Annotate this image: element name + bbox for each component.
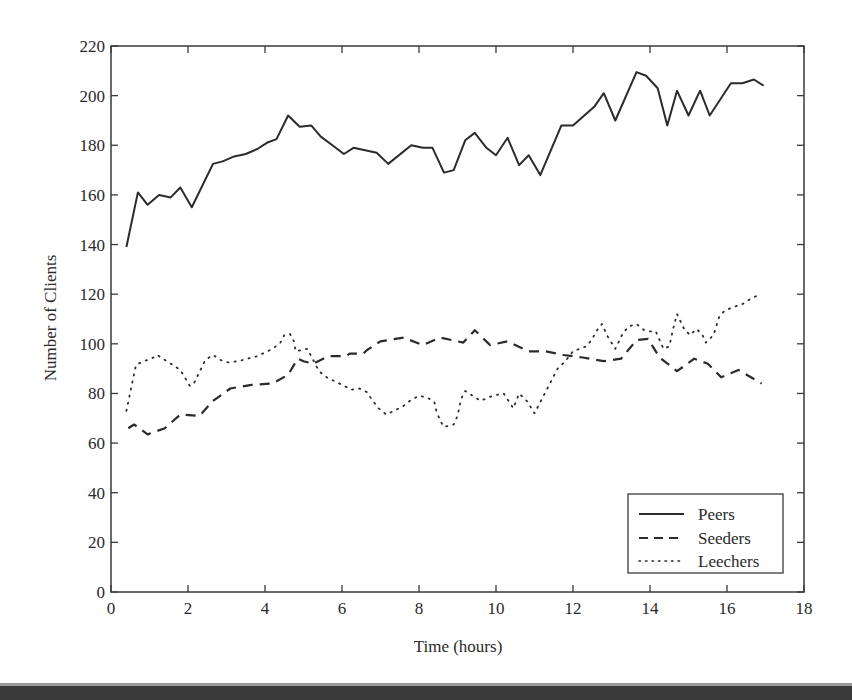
y-tick-label: 200	[80, 87, 106, 106]
series-layer	[126, 72, 763, 434]
y-axis-label: Number of Clients	[41, 255, 60, 382]
x-tick-label: 16	[719, 599, 736, 618]
y-tick-label: 220	[80, 37, 106, 56]
x-tick-label: 2	[184, 599, 193, 618]
legend-label-peers: Peers	[698, 505, 735, 524]
x-tick-label: 14	[642, 599, 660, 618]
y-tick-label: 0	[97, 583, 106, 602]
x-tick-label: 10	[488, 599, 505, 618]
x-axis-label: Time (hours)	[414, 637, 503, 656]
x-tick-label: 4	[261, 599, 270, 618]
page-bottom-bar	[0, 686, 852, 700]
series-line-seeders	[128, 330, 761, 434]
legend-label-leechers: Leechers	[698, 552, 759, 571]
series-line-peers	[126, 72, 763, 247]
y-tick-label: 180	[80, 136, 106, 155]
y-tick-label: 160	[80, 186, 106, 205]
x-tick-label: 6	[338, 599, 347, 618]
x-tick-label: 18	[796, 599, 813, 618]
y-tick-label: 20	[88, 533, 105, 552]
y-tick-label: 120	[80, 285, 106, 304]
y-tick-label: 140	[80, 236, 106, 255]
y-tick-label: 100	[80, 335, 106, 354]
x-tick-label: 12	[565, 599, 582, 618]
legend-label-seeders: Seeders	[698, 529, 751, 548]
x-tick-label: 0	[107, 599, 116, 618]
chart: 020406080100120140160180200220 024681012…	[0, 0, 852, 700]
y-tick-label: 80	[88, 384, 105, 403]
y-tick-label: 60	[88, 434, 105, 453]
x-tick-label: 8	[415, 599, 424, 618]
legend: Peers Seeders Leechers	[628, 494, 783, 573]
y-tick-label: 40	[88, 484, 105, 503]
